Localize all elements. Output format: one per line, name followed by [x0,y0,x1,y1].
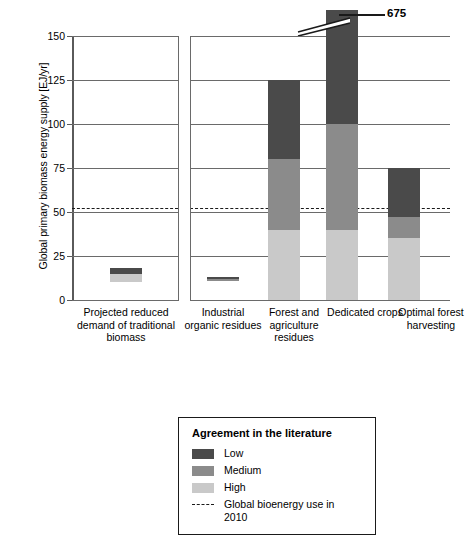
bar-segment-low [268,80,300,159]
bar-segment-low [326,10,358,124]
tick-label-100: 100 [47,118,65,130]
legend-swatch-medium-icon [192,466,214,476]
tick-label-25: 25 [53,250,65,262]
bar-segment-medium [388,217,420,238]
legend-label-medium: Medium [224,464,261,477]
legend-item-low: Low [192,447,364,460]
tick-mark-125 [67,80,72,81]
bar-dedicated-crops [326,10,358,300]
baseline-panel-a [72,300,178,301]
x-axis-labels: Projected reduced demand of traditional … [72,306,450,376]
legend-item-reference-line: Global bioenergy use in 2010 [192,498,364,523]
tick-label-0: 0 [59,294,65,306]
x-label-optimal-forest-harvesting: Optimal forest harvesting [394,306,467,331]
baseline-panel-b [190,300,450,301]
x-label-dedicated-crops: Dedicated crops [326,306,404,319]
annotation-leader-line [339,14,385,16]
x-label-industrial-organic-residues: Industrial organic residues [184,306,262,331]
tick-label-125: 125 [47,74,65,86]
tick-mark-75 [67,168,72,169]
reference-line-panel-a [72,208,178,209]
x-label-forest-and-agriculture-residues: Forest and agriculture residues [252,306,336,344]
plot-area: 150 125 100 75 50 25 0 [72,30,450,300]
chart-legend: Agreement in the literature Low Medium H… [178,417,376,535]
tick-mark-25 [67,256,72,257]
tick-mark-0 [67,300,72,301]
bar-segment-low [388,168,420,217]
gridline-125-panel-b [190,80,450,81]
tick-label-150: 150 [47,30,65,42]
gridline-75-panel-a [72,168,178,169]
legend-dashed-line-icon [192,500,214,510]
panel-separator-left [178,36,179,301]
y-axis-title: Global primary biomass energy supply [EJ… [37,31,49,301]
chart-figure: Global primary biomass energy supply [EJ… [0,0,467,540]
bar-segment-high [326,230,358,300]
gridline-125-panel-a [72,80,178,81]
bar-segment-high [268,230,300,300]
bar-segment-medium [207,279,239,281]
tick-mark-150 [67,36,72,37]
bar-segment-low [207,277,239,279]
bar-forest-and-agriculture-residues [268,80,300,300]
bar-segment-medium [326,124,358,230]
tick-mark-50 [67,212,72,213]
x-label-projected-reduced-demand: Projected reduced demand of traditional … [76,306,176,344]
gridline-150-panel-a [72,36,178,37]
legend-title: Agreement in the literature [192,427,364,439]
legend-item-high: High [192,481,364,494]
bar-projected-reduced-demand [110,250,142,282]
bar-segment-low [110,268,142,273]
legend-item-medium: Medium [192,464,364,477]
bar-industrial-organic-residues [207,257,239,281]
panel-separator-right [190,36,191,301]
gridline-150-panel-b [190,36,450,37]
gridline-50-panel-a [72,212,178,213]
legend-label-low: Low [224,447,243,460]
gridline-100-panel-b [190,124,450,125]
tick-mark-100 [67,124,72,125]
tick-label-75: 75 [53,162,65,174]
legend-label-high: High [224,481,246,494]
bar-segment-medium [268,159,300,229]
legend-swatch-low-icon [192,449,214,459]
legend-swatch-high-icon [192,483,214,493]
tick-label-50: 50 [53,206,65,218]
bar-optimal-forest-harvesting [388,168,420,300]
bar-segment-high [388,238,420,300]
annotation-675: 675 [387,7,406,19]
gridline-100-panel-a [72,124,178,125]
bar-segment-high [110,274,142,283]
legend-label-reference-line: Global bioenergy use in 2010 [224,498,359,523]
